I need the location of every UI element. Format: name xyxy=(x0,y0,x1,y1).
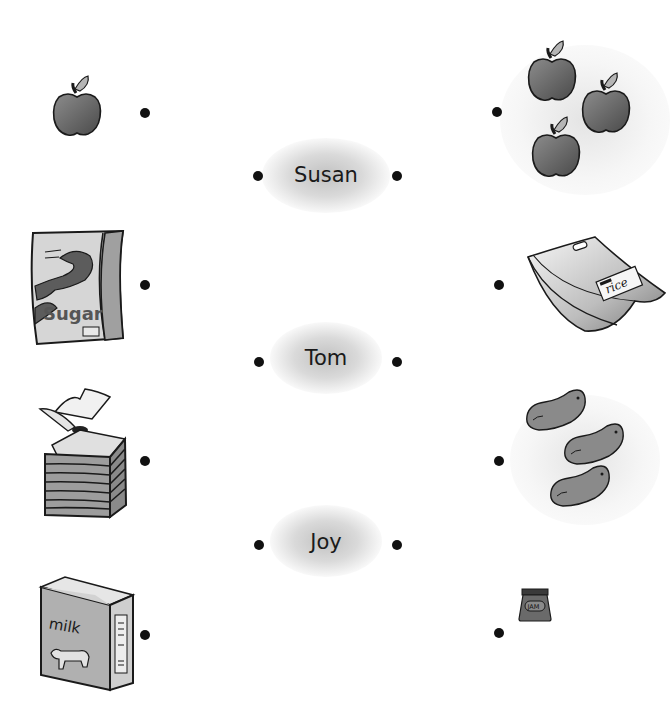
match-dot-right-jam[interactable] xyxy=(494,628,504,638)
rice-bag-icon: rice xyxy=(525,235,670,335)
match-dot-joy-left[interactable] xyxy=(254,540,264,550)
bread-icon xyxy=(30,387,130,522)
match-dot-tom-left[interactable] xyxy=(254,357,264,367)
beans-icon xyxy=(525,388,645,508)
milk-carton-icon: milk xyxy=(35,575,135,695)
name-label-susan: Susan xyxy=(266,163,386,187)
sugar-bag-icon: Sugar xyxy=(25,228,130,348)
name-label-tom: Tom xyxy=(266,346,386,370)
jam-jar-icon: JAM xyxy=(517,588,553,622)
three-apples-icon xyxy=(525,40,665,185)
name-label-joy: Joy xyxy=(266,530,386,554)
match-dot-left-sugar[interactable] xyxy=(140,280,150,290)
match-dot-joy-right[interactable] xyxy=(392,540,402,550)
match-dot-susan-left[interactable] xyxy=(253,171,263,181)
match-dot-right-apples[interactable] xyxy=(492,107,502,117)
match-dot-susan-right[interactable] xyxy=(392,171,402,181)
apple-icon xyxy=(50,75,105,145)
match-dot-right-beans[interactable] xyxy=(494,456,504,466)
match-dot-left-bread[interactable] xyxy=(140,456,150,466)
match-dot-left-milk[interactable] xyxy=(140,630,150,640)
svg-text:JAM: JAM xyxy=(527,603,540,611)
match-dot-tom-right[interactable] xyxy=(392,357,402,367)
match-dot-right-rice[interactable] xyxy=(494,280,504,290)
svg-text:Sugar: Sugar xyxy=(43,303,103,324)
match-dot-left-apple[interactable] xyxy=(140,108,150,118)
